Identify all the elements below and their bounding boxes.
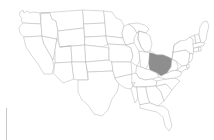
state-NJ[interactable] [189,53,193,63]
state-NM[interactable] [72,62,88,80]
state-WA[interactable] [20,10,41,24]
state-WY[interactable] [58,28,85,47]
state-ME[interactable] [199,21,209,43]
state-MN[interactable] [104,11,124,38]
state-SD[interactable] [84,23,106,37]
state-IN[interactable] [139,51,150,69]
state-AZ[interactable] [54,62,74,83]
state-FL[interactable] [140,103,172,131]
us-locator-map: United States Ohio [0,0,214,140]
left-edge-rule [6,108,7,140]
state-OK[interactable] [86,60,113,72]
us-map-svg [0,0,214,140]
state-ND[interactable] [83,10,105,24]
state-OR[interactable] [19,23,42,37]
state-KS[interactable] [85,45,109,62]
state-RI[interactable] [199,47,201,51]
